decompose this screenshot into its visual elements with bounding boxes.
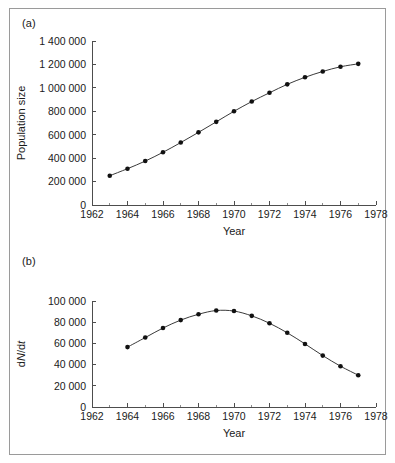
data-point-marker <box>125 166 130 171</box>
panel-a: (a) 0200 000400 000600 000800 0001 000 0… <box>0 0 395 243</box>
x-tick-label: 1966 <box>151 208 175 220</box>
x-axis-title: Year <box>223 225 246 237</box>
data-series-line <box>128 310 359 375</box>
y-axis-title: Population size <box>15 86 27 161</box>
data-point-marker <box>303 342 308 347</box>
data-point-marker <box>143 335 148 340</box>
data-point-marker <box>249 314 254 319</box>
data-point-marker <box>214 120 219 125</box>
data-point-marker <box>320 69 325 74</box>
x-tick-label: 1976 <box>329 410 353 422</box>
y-tick-label: 200 000 <box>48 175 86 187</box>
panel-b-plot: 020 00040 00060 00080 000100 00019621964… <box>0 243 395 463</box>
y-tick-label: 800 000 <box>48 105 86 117</box>
data-point-marker <box>178 318 183 323</box>
x-tick-label: 1962 <box>80 410 104 422</box>
data-point-marker <box>356 62 361 67</box>
x-tick-label: 1974 <box>293 208 317 220</box>
x-axis-title: Year <box>223 427 246 439</box>
panel-b: (b) 020 00040 00060 00080 000100 0001962… <box>0 243 395 463</box>
data-point-marker <box>232 109 237 114</box>
y-axis-title: dN/dt <box>15 340 27 367</box>
data-point-marker <box>249 99 254 104</box>
y-tick-label: 20 000 <box>54 380 86 392</box>
y-tick-label: 1 400 000 <box>39 35 86 47</box>
data-point-marker <box>161 326 166 331</box>
x-tick-label: 1966 <box>151 410 175 422</box>
y-tick-label: 1 200 000 <box>39 58 86 70</box>
y-tick-label: 60 000 <box>54 337 86 349</box>
data-point-marker <box>338 64 343 69</box>
panel-a-plot: 0200 000400 000600 000800 0001 000 0001 … <box>0 0 395 243</box>
data-point-marker <box>143 159 148 164</box>
data-point-marker <box>320 353 325 358</box>
data-point-marker <box>303 75 308 80</box>
data-point-marker <box>267 321 272 326</box>
x-tick-label: 1976 <box>329 208 353 220</box>
data-point-marker <box>107 173 112 178</box>
x-tick-label: 1972 <box>258 208 282 220</box>
data-series-line <box>110 64 359 176</box>
x-tick-label: 1978 <box>364 410 388 422</box>
figure-root: (a) 0200 000400 000600 000800 0001 000 0… <box>0 0 395 463</box>
x-tick-label: 1964 <box>116 208 140 220</box>
y-tick-label: 400 000 <box>48 152 86 164</box>
data-point-marker <box>125 345 130 350</box>
data-point-marker <box>285 82 290 87</box>
x-tick-label: 1970 <box>222 410 246 422</box>
x-tick-label: 1978 <box>364 208 388 220</box>
y-tick-label: 600 000 <box>48 129 86 141</box>
x-tick-label: 1968 <box>187 208 211 220</box>
data-point-marker <box>214 308 219 313</box>
y-tick-label: 80 000 <box>54 316 86 328</box>
x-tick-label: 1968 <box>187 410 211 422</box>
data-point-marker <box>338 364 343 369</box>
data-point-marker <box>267 90 272 95</box>
data-point-marker <box>232 309 237 314</box>
x-tick-label: 1964 <box>116 410 140 422</box>
data-point-marker <box>356 373 361 378</box>
data-point-marker <box>196 130 201 135</box>
data-point-marker <box>161 150 166 155</box>
x-tick-label: 1974 <box>293 410 317 422</box>
data-point-marker <box>196 312 201 317</box>
y-tick-label: 40 000 <box>54 358 86 370</box>
y-tick-label: 100 000 <box>48 295 86 307</box>
x-tick-label: 1970 <box>222 208 246 220</box>
x-tick-label: 1962 <box>80 208 104 220</box>
data-point-marker <box>285 331 290 336</box>
data-point-marker <box>178 140 183 145</box>
y-tick-label: 1 000 000 <box>39 82 86 94</box>
x-tick-label: 1972 <box>258 410 282 422</box>
